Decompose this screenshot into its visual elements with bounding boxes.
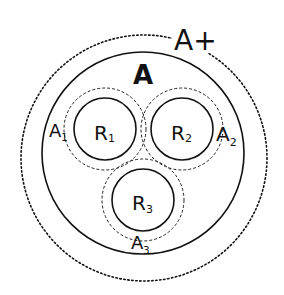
label-r1: R1 — [94, 121, 115, 145]
label-a: A — [133, 60, 153, 90]
label-a3: A3 — [131, 232, 150, 256]
label-a1: A1 — [49, 120, 68, 143]
nested-circle-diagram: A+ A R1 R2 R3 A1 A2 A3 — [0, 0, 284, 295]
label-r2: R2 — [171, 121, 192, 145]
label-r3: R3 — [132, 191, 153, 216]
label-a2: A2 — [216, 122, 237, 149]
label-a-plus: A+ — [174, 24, 217, 57]
